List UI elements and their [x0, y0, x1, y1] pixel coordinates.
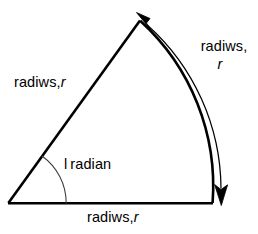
- sector-body: [8, 20, 214, 203]
- arc-length-label-line1: radiws,: [201, 38, 248, 54]
- bottom-radius-label-symbol: r: [134, 209, 139, 225]
- radian-sector-figure: radiws,r radiws,r radiws,r lradian: [0, 0, 258, 234]
- left-radius-label: radiws,r: [14, 74, 66, 91]
- left-radius-label-symbol: r: [61, 74, 66, 90]
- left-radius-label-text: radiws,: [14, 74, 61, 90]
- bottom-radius-label-text: radiws,: [87, 209, 134, 225]
- bottom-radius-label: radiws,r: [87, 209, 139, 226]
- angle-label-unit: radian: [70, 156, 111, 172]
- arc-length-label: radiws,r: [197, 38, 251, 73]
- sector-diagram-svg: [0, 0, 258, 234]
- angle-label: lradian: [64, 156, 111, 173]
- arc-length-label-line2: r: [189, 56, 251, 73]
